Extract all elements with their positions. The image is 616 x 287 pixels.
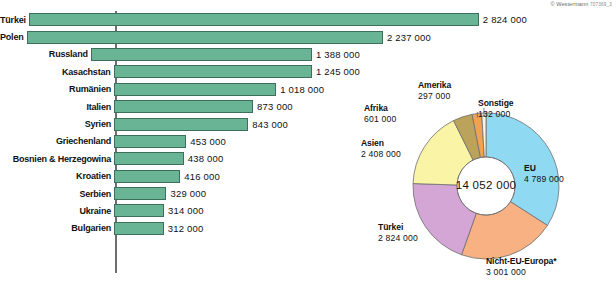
- bar-row: Kasachstan1 245 000: [0, 63, 360, 80]
- bar: [114, 100, 253, 113]
- donut-slice-value: 2 824 000: [378, 233, 418, 244]
- bar-value-label: 873 000: [257, 101, 293, 112]
- bar-row: Türkei2 824 000: [0, 11, 360, 28]
- donut-chart: EU4 789 000Nicht-EU-Europa*3 001 000Türk…: [356, 0, 616, 287]
- bar-track: 329 000: [114, 185, 360, 202]
- donut-slice-name: Sonstige: [478, 98, 514, 109]
- donut-slice-value: 3 001 000: [486, 267, 557, 278]
- bar: [114, 170, 180, 183]
- bar-chart: Türkei2 824 000Polen2 237 000Russland1 3…: [0, 11, 360, 273]
- bar-category-label: Italien: [0, 102, 114, 112]
- bar: [114, 204, 164, 217]
- bar-category-label: Kroatien: [0, 171, 114, 181]
- donut-slice-name: Türkei: [378, 222, 418, 233]
- bar-row: Italien873 000: [0, 98, 360, 115]
- bar: [114, 152, 184, 165]
- donut-slice-label: Türkei2 824 000: [378, 222, 418, 243]
- bar-category-label: Kasachstan: [0, 67, 114, 77]
- bar-value-label: 329 000: [170, 188, 206, 199]
- bar-category-label: Griechenland: [0, 136, 114, 146]
- bar-category-label: Rumänien: [0, 84, 114, 94]
- bar-row: Rumänien1 018 000: [0, 81, 360, 98]
- donut-slice-name: Afrika: [364, 103, 396, 114]
- donut-slice-value: 2 408 000: [361, 149, 401, 160]
- bar-row: Ukraine314 000: [0, 202, 360, 219]
- bar-track: 1 388 000: [91, 46, 360, 63]
- bar-value-label: 1 018 000: [280, 84, 324, 95]
- bar-row: Russland1 388 000: [0, 46, 360, 63]
- bar-category-label: Serbien: [0, 189, 114, 199]
- bar-category-label: Bosnien & Herzegowina: [0, 154, 114, 164]
- bar: [114, 222, 164, 235]
- bar-track: 416 000: [114, 168, 360, 185]
- donut-slice-name: EU: [524, 163, 564, 174]
- bar-value-label: 1 245 000: [316, 66, 360, 77]
- bar-track: 1 018 000: [114, 81, 360, 98]
- bar-value-label: 453 000: [190, 136, 226, 147]
- bar-row: Kroatien416 000: [0, 168, 360, 185]
- infographic-canvas: © Westermann 707369_3 Türkei2 824 000Pol…: [0, 0, 616, 287]
- bar-track: 314 000: [114, 202, 360, 219]
- bar-row: Polen2 237 000: [0, 28, 360, 45]
- bar-row: Griechenland453 000: [0, 133, 360, 150]
- donut-slice-name: Asien: [361, 138, 401, 149]
- bar: [114, 118, 248, 131]
- donut-slice-label: Afrika601 000: [364, 103, 396, 124]
- bar-row: Syrien843 000: [0, 115, 360, 132]
- donut-slice-label: Amerika297 000: [418, 80, 451, 101]
- bar-value-label: 1 388 000: [316, 49, 360, 60]
- bar-track: 843 000: [114, 115, 360, 132]
- bar-track: 453 000: [114, 133, 360, 150]
- bar-track: 312 000: [114, 220, 360, 237]
- bar-chart-rows: Türkei2 824 000Polen2 237 000Russland1 3…: [0, 11, 360, 237]
- bar-track: 1 245 000: [114, 63, 360, 80]
- donut-slice-label: Sonstige132 000: [478, 98, 514, 119]
- donut-slice-value: 601 000: [364, 114, 396, 125]
- donut-slice-label: Asien2 408 000: [361, 138, 401, 159]
- bar: [114, 83, 276, 96]
- donut-slice-value: 132 000: [478, 109, 514, 120]
- bar-value-label: 314 000: [168, 205, 204, 216]
- donut-center-total: 14 052 000: [440, 179, 532, 191]
- bar-category-label: Russland: [0, 49, 91, 59]
- bar-value-label: 843 000: [252, 119, 288, 130]
- bar-row: Serbien329 000: [0, 185, 360, 202]
- bar-value-label: 438 000: [188, 153, 224, 164]
- bar: [114, 135, 186, 148]
- bar: [114, 65, 312, 78]
- bar-category-label: Türkei: [0, 15, 29, 25]
- bar-category-label: Bulgarien: [0, 223, 114, 233]
- bar-row: Bosnien & Herzegowina438 000: [0, 150, 360, 167]
- bar-track: 438 000: [114, 150, 360, 167]
- donut-slice-label: Nicht-EU-Europa*3 001 000: [486, 256, 557, 277]
- bar: [91, 48, 312, 61]
- bar-track: 873 000: [114, 98, 360, 115]
- bar: [114, 187, 166, 200]
- bar-category-label: Ukraine: [0, 206, 114, 216]
- bar-row: Bulgarien312 000: [0, 220, 360, 237]
- bar: [27, 31, 383, 44]
- donut-slice-name: Nicht-EU-Europa*: [486, 256, 557, 267]
- donut-slice-value: 297 000: [418, 91, 451, 102]
- bar-category-label: Syrien: [0, 119, 114, 129]
- bar-value-label: 416 000: [184, 171, 220, 182]
- bar-category-label: Polen: [0, 32, 27, 42]
- donut-slice-name: Amerika: [418, 80, 451, 91]
- bar-value-label: 312 000: [168, 223, 204, 234]
